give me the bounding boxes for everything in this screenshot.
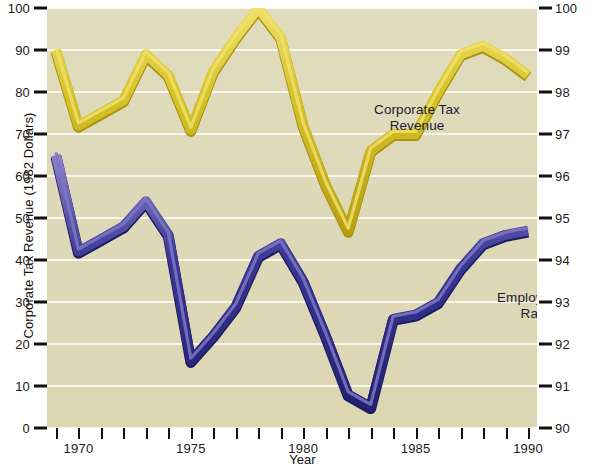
- x-axis-tick: [393, 428, 395, 439]
- y-axis-right-tick-label: 100: [555, 1, 577, 16]
- employment-rate-line-shadow: [56, 157, 528, 409]
- annotation-emp-line-2: Rate: [465, 306, 537, 322]
- y-axis-right-tick: [539, 133, 552, 136]
- y-axis-left-tick: [34, 175, 47, 178]
- x-axis-tick: [483, 428, 485, 439]
- x-axis-tick: [146, 428, 148, 439]
- y-axis-right-tick-label: 91: [555, 379, 570, 394]
- y-axis-right-tick-label: 96: [555, 169, 570, 184]
- annotation-emp-line-1: Employment: [465, 290, 537, 306]
- annotation-tax-line-1: Corporate Tax: [347, 102, 487, 118]
- y-axis-right-tick-label: 95: [555, 211, 570, 226]
- y-axis-left-tick-label: 0: [23, 421, 30, 436]
- y-axis-right: 90919293949596979899100: [537, 0, 605, 436]
- employment-rate-line-body: [56, 155, 528, 407]
- y-axis-left-tick: [34, 217, 47, 220]
- y-axis-left-tick: [34, 49, 47, 52]
- y-axis-left-tick: [34, 133, 47, 136]
- x-axis-tick: [461, 428, 463, 439]
- x-axis: 19701975198019851990: [47, 428, 537, 474]
- x-axis-tick: [191, 428, 193, 439]
- x-axis-tick: [236, 428, 238, 439]
- y-axis-right-tick: [539, 427, 552, 430]
- x-axis-tick: [281, 428, 283, 439]
- y-axis-right-tick: [539, 217, 552, 220]
- y-axis-left-tick: [34, 427, 47, 430]
- y-axis-left-tick: [34, 385, 47, 388]
- y-axis-right-tick-label: 92: [555, 337, 570, 352]
- x-axis-tick: [258, 428, 260, 439]
- x-axis-tick: [416, 428, 418, 439]
- y-axis-right-tick: [539, 7, 552, 10]
- y-axis-left-tick: [34, 91, 47, 94]
- y-axis-right-tick-label: 99: [555, 43, 570, 58]
- y-axis-right-tick-label: 98: [555, 85, 570, 100]
- y-axis-left-tick: [34, 7, 47, 10]
- chart-figure: Corporate Tax Revenue Employment Rate 01…: [0, 0, 605, 474]
- y-axis-left-title: Corporate Tax Revenue (1982 Dollars): [21, 46, 36, 406]
- y-axis-left-tick: [34, 259, 47, 262]
- y-axis-right-tick: [539, 91, 552, 94]
- x-axis-tick: [213, 428, 215, 439]
- x-axis-tick: [506, 428, 508, 439]
- x-axis-tick: [371, 428, 373, 439]
- y-axis-right-tick-label: 97: [555, 127, 570, 142]
- y-axis-right-tick: [539, 49, 552, 52]
- annotation-tax-line-2: Revenue: [347, 118, 487, 134]
- annotation-corporate-tax-revenue: Corporate Tax Revenue: [347, 102, 487, 134]
- y-axis-right-tick: [539, 259, 552, 262]
- x-axis-tick: [326, 428, 328, 439]
- y-axis-right-tick-label: 93: [555, 295, 570, 310]
- y-axis-right-tick: [539, 343, 552, 346]
- x-axis-tick: [348, 428, 350, 439]
- y-axis-left-tick-label: 100: [8, 1, 30, 16]
- x-axis-tick: [528, 428, 530, 439]
- x-axis-tick: [123, 428, 125, 439]
- y-axis-right-tick: [539, 385, 552, 388]
- x-axis-tick: [101, 428, 103, 439]
- x-axis-title: Year: [0, 452, 605, 467]
- y-axis-right-tick-label: 94: [555, 253, 570, 268]
- x-axis-tick: [303, 428, 305, 439]
- y-axis-right-tick: [539, 301, 552, 304]
- annotation-employment-rate: Employment Rate: [465, 290, 537, 322]
- y-axis-left-tick: [34, 343, 47, 346]
- x-axis-tick: [78, 428, 80, 439]
- y-axis-left-tick: [34, 301, 47, 304]
- x-axis-tick: [438, 428, 440, 439]
- plot-area: Corporate Tax Revenue Employment Rate: [47, 8, 537, 428]
- x-axis-tick: [168, 428, 170, 439]
- y-axis-right-tick: [539, 175, 552, 178]
- y-axis-right-tick-label: 90: [555, 421, 570, 436]
- series-layer: [47, 8, 537, 428]
- x-axis-tick: [56, 428, 58, 439]
